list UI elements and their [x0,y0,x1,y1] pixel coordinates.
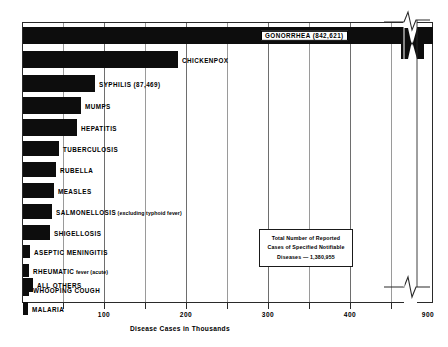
bar-all-others [23,278,33,292]
bar-salmonellosis [23,204,52,219]
tick-label-200: 200 [180,311,193,318]
tick-mark-450 [391,303,392,309]
bar-label-gonorrhea: GONORRHEA (842,621) [261,30,348,40]
bar-syphilis [23,75,95,92]
rheumatic-name: RHEUMATIC [33,267,74,274]
tick-mark-250 [227,303,228,309]
bar-rheumatic-fever [23,264,29,277]
tick-mark-50 [63,303,64,309]
bar-label-measles: MEASLES [58,187,92,194]
bar-gonorrhea [23,27,433,44]
bar-label-mumps: MUMPS [85,102,111,109]
bar-aseptic-meningitis [23,245,30,258]
bar-measles [23,183,54,198]
total-line-2: Cases of Specified Notifiable [264,243,348,252]
rheumatic-qualifier: fever (acute) [74,268,108,274]
bar-tuberculosis [23,141,59,156]
tick-label-900: 900 [422,311,435,318]
bar-label-chickenpox: CHICKENPOX [182,56,228,63]
bar-hepatitis [23,119,77,136]
tick-mark-350 [309,303,310,309]
bar-rubella [23,162,56,177]
tick-label-400: 400 [344,311,357,318]
bar-label-syphilis: SYPHILIS (87,469) [99,80,161,87]
tick-label-300: 300 [262,311,275,318]
tick-mark-100 [104,303,105,309]
tick-mark-200 [186,303,187,309]
bar-shigellosis [23,225,50,240]
bar-label-tuberculosis: TUBERCULOSIS [63,145,118,152]
tick-mark-150 [145,303,146,309]
x-axis-title: Disease Cases in Thousands [130,325,230,332]
tick-mark-400 [350,303,351,309]
bar-malaria [23,302,28,315]
bar-label-hepatitis: HEPATITIS [81,124,117,131]
bar-mumps [23,97,81,114]
bar-label-salmonellosis: SALMONELLOSIS (excluding typhoid fever) [56,208,182,215]
tick-mark-300 [268,303,269,309]
salmonellosis-qualifier: (excluding typhoid fever) [116,209,182,215]
notifiable-diseases-bar-chart: GONORRHEA (842,621) CHICKENPOX SYPHILIS … [0,0,448,347]
salmonellosis-name: SALMONELLOSIS [56,208,116,215]
bar-label-rheumatic-fever: RHEUMATIC fever (acute) [33,267,108,274]
bar-series: GONORRHEA (842,621) CHICKENPOX SYPHILIS … [23,23,433,302]
tick-label-100: 100 [98,311,111,318]
total-line-3: Diseases — 1,380,955 [264,253,348,262]
total-cases-callout: Total Number of Reported Cases of Specif… [259,229,353,267]
bar-label-rubella: RUBELLA [60,166,93,173]
bar-label-all-others: ALL OTHERS [37,282,82,289]
bar-chickenpox [23,51,178,68]
total-line-1: Total Number of Reported [264,234,348,243]
bar-label-aseptic-meningitis: ASEPTIC MENINGITIS [34,248,108,255]
bar-label-shigellosis: SHIGELLOSIS [54,229,101,236]
bar-label-malaria: MALARIA [32,305,64,312]
